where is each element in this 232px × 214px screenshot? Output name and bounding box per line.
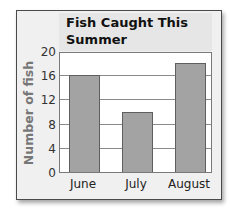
x-tick-label: August <box>159 177 219 191</box>
x-tick-label: July <box>106 177 166 191</box>
y-tick-label: 4 <box>26 143 56 155</box>
bar-june <box>69 75 100 172</box>
chart-title-line-2: Summer <box>66 31 216 48</box>
bar-august <box>175 63 206 172</box>
x-tick-label: June <box>53 177 113 191</box>
chart-title: Fish Caught This Summer <box>66 14 216 48</box>
y-tick-label: 16 <box>26 70 56 82</box>
bar-july <box>122 112 153 173</box>
y-tick-label: 8 <box>26 119 56 131</box>
y-tick-label: 12 <box>26 94 56 106</box>
y-tick-label: 20 <box>26 46 56 58</box>
plot-area <box>59 52 212 173</box>
y-tick-label: 0 <box>26 167 56 179</box>
chart-title-line-1: Fish Caught This <box>66 14 216 31</box>
